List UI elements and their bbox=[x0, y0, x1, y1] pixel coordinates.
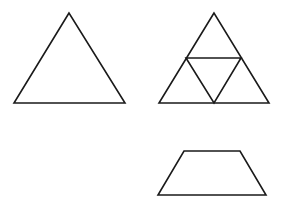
geometry-diagram bbox=[0, 0, 285, 208]
subdivided-triangle bbox=[159, 13, 269, 103]
inner-triangle bbox=[186, 58, 241, 103]
trapezoid bbox=[158, 151, 266, 195]
triangle bbox=[14, 13, 125, 103]
